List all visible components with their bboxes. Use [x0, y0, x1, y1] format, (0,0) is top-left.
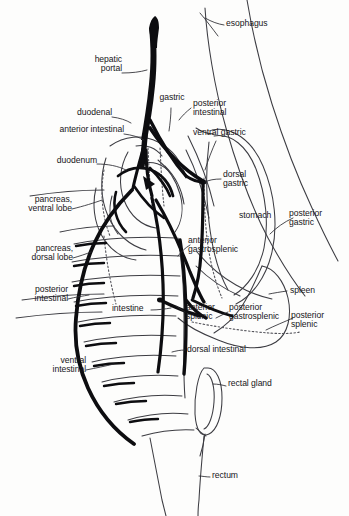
leader-gastric — [169, 108, 171, 131]
label-esophagus: esophagus — [226, 19, 268, 28]
intestine-valve-7 — [92, 355, 176, 362]
leader-ventral-gastric — [205, 141, 216, 170]
junction-node-splenic — [157, 298, 163, 303]
label-ventral-gastric: ventral gastric — [193, 128, 246, 137]
intestine-rib-1 — [76, 243, 106, 246]
leader-spleen — [269, 291, 287, 294]
intestine-rib-9 — [116, 401, 146, 404]
label-hepatic-portal: hepatic portal — [66, 55, 122, 74]
leader-intestine — [151, 308, 171, 310]
mesentery-line-1 — [188, 136, 214, 206]
intestine-valve-9 — [114, 395, 182, 402]
leader-posterior-intestinal-top — [179, 108, 191, 120]
posterior-splenic-dotted — [192, 322, 300, 334]
intestine-rib-8 — [104, 383, 134, 386]
label-gastric: gastric — [150, 93, 194, 102]
intestine-rib-2 — [74, 263, 104, 266]
intestine-valve-11 — [142, 430, 194, 436]
intestine-rib-6 — [86, 343, 116, 346]
mesentery-line-2 — [186, 150, 209, 218]
intestine-rib-3 — [74, 283, 104, 286]
stomach-pyloric-fold2 — [196, 266, 240, 296]
intestine-valve-8 — [102, 375, 178, 382]
leader-dorsal-intestinal — [172, 350, 185, 352]
leader-pancreas-ventral — [72, 200, 102, 209]
label-posterior-splenic: posterior splenic — [291, 311, 324, 330]
leader-esophagus — [205, 18, 224, 25]
rectum-left — [150, 438, 166, 516]
leader-rectal-gland — [213, 384, 226, 386]
label-duodenal: duodenal — [52, 108, 112, 117]
label-anterior-gastrosplenic: anterior gastrosplenic — [188, 236, 238, 255]
label-anterior-intestinal: anterior intestinal — [28, 125, 124, 134]
intestine-rib-5 — [80, 323, 110, 326]
label-spleen: spleen — [290, 286, 315, 295]
mesentery-left-a — [60, 226, 114, 232]
mesentery-left-d — [16, 312, 102, 318]
label-ventral-intestinal: ventral intestinal — [28, 356, 86, 375]
label-posterior-intestinal-top: posterior intestinal — [193, 99, 226, 118]
label-posterior-intestinal-left: posterior intestinal — [12, 285, 68, 304]
label-anterior-splenic: anterior splenic — [186, 303, 215, 322]
ventral-intestinal-vein — [152, 198, 163, 372]
intestine-rib-4 — [76, 303, 106, 306]
label-stomach: stomach — [239, 211, 271, 220]
leader-duodenal — [112, 117, 131, 123]
label-duodenum: duodenum — [30, 156, 97, 165]
label-rectum: rectum — [212, 471, 238, 480]
label-pancreas-ventral-lobe: pancreas, ventral lobe — [10, 195, 72, 214]
label-intestine: intestine — [112, 304, 144, 313]
label-posterior-gastrosplenic: posterior gastrosplenic — [229, 303, 279, 322]
label-pancreas-dorsal-lobe: pancreas, dorsal lobe — [8, 244, 73, 263]
leader-esophagus-cross — [200, 13, 218, 36]
stomach-lesser-curve — [207, 142, 228, 290]
label-dorsal-gastric: dorsal gastric — [223, 170, 248, 189]
label-rectal-gland: rectal gland — [228, 379, 272, 388]
intestine-rib-10 — [130, 419, 158, 422]
leader-hepatic-portal — [122, 70, 147, 73]
label-posterior-gastric: posterior gastric — [289, 209, 322, 228]
label-dorsal-intestinal: dorsal intestinal — [187, 345, 246, 354]
rectal-gland-inner — [204, 374, 214, 429]
duodenum-fold-a — [136, 145, 162, 156]
